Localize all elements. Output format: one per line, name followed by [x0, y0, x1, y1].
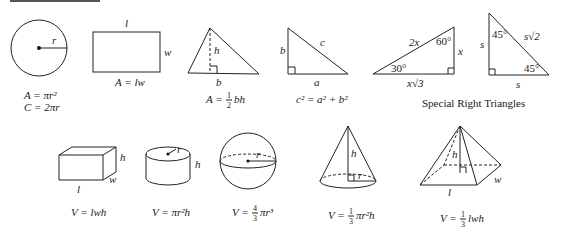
pyramid-l-label: l [448, 186, 451, 198]
triangle-area-lhs: A = [205, 93, 223, 105]
pyramid-h-label: h [452, 148, 458, 160]
cone-volume-num: 1 [349, 207, 353, 216]
sphere-volume-lhs: V = [232, 206, 249, 218]
pyramid-volume-rhs: lwh [468, 212, 484, 224]
sphere-r-label: r [256, 148, 261, 160]
triangle-30-60-90: 2x 60° x 30° x√3 [373, 27, 463, 89]
rectangle-width-label: w [164, 46, 172, 58]
box-figure: h w l V = lwh [59, 147, 126, 218]
pyramid-figure: h w l V = 1 3 lwh [420, 126, 502, 229]
triangle-base-label: b [216, 76, 222, 88]
rectangle-length-label: l [125, 17, 128, 29]
angle-60-label: 60° [436, 35, 451, 47]
leg-s-bottom-label: s [516, 78, 520, 90]
triangle-area-num: 1 [227, 91, 231, 100]
leg-s-left-label: s [480, 38, 484, 50]
sphere-volume-rhs: πr³ [260, 206, 274, 218]
right-triangle-hyp-c: c [320, 36, 325, 48]
right-triangle-figure: b a c c² = a² + b² [280, 28, 348, 105]
pythagorean-formula: c² = a² + b² [296, 93, 348, 105]
sphere-volume-den: 3 [253, 214, 257, 223]
cylinder-figure: r h V = πr²h [146, 143, 201, 218]
angle-45-top-label: 45° [492, 28, 507, 40]
sphere-figure: r V = 4 3 πr³ [220, 133, 276, 223]
pyramid-volume-den: 3 [461, 220, 465, 229]
triangle-45-45-90: 45° s s√2 45° s [480, 13, 549, 90]
geometry-reference-figure: r A = πr² C = 2πr l w A = lw h b A = 1 2… [0, 0, 562, 236]
hyp-2x-label: 2x [409, 36, 420, 48]
circle-circumference-formula: C = 2πr [24, 101, 60, 113]
rectangle-figure: l w A = lw [93, 17, 172, 88]
box-l-label: l [77, 183, 80, 195]
cone-volume-lhs: V = [328, 209, 345, 221]
short-leg-x-label: x [457, 45, 463, 57]
cylinder-h-label: h [195, 158, 201, 170]
angle-45-right-label: 45° [524, 62, 539, 74]
circle-radius-label: r [52, 34, 57, 46]
pyramid-w-label: w [494, 173, 502, 185]
angle-30-label: 30° [391, 62, 406, 74]
cylinder-r-label: r [177, 143, 182, 155]
box-h-label: h [120, 151, 126, 163]
triangle-area-den: 2 [227, 101, 231, 110]
box-volume-formula: V = lwh [71, 206, 107, 218]
pyramid-volume-lhs: V = [440, 212, 457, 224]
cone-volume-den: 3 [349, 217, 353, 226]
cone-r-label: r [358, 169, 363, 181]
right-triangle-leg-a: a [314, 76, 320, 88]
cone-figure: h r V = 1 3 πr²h [320, 126, 376, 226]
rectangle-area-formula: A = lw [114, 76, 145, 88]
pyramid-volume-num: 1 [461, 210, 465, 219]
long-leg-label: x√3 [406, 77, 424, 89]
circle-area-formula: A = πr² [23, 89, 57, 101]
circle-figure: r A = πr² C = 2πr [11, 20, 67, 113]
box-w-label: w [109, 173, 117, 185]
cylinder-volume-formula: V = πr²h [152, 206, 191, 218]
triangle-area-rhs: bh [234, 93, 246, 105]
sphere-volume-num: 4 [253, 204, 257, 213]
triangle-height-label: h [214, 44, 220, 56]
hyp-s-root2-label: s√2 [524, 30, 540, 42]
triangle-figure: h b A = 1 2 bh [188, 28, 259, 110]
cone-volume-rhs: πr²h [356, 209, 375, 221]
special-right-triangles-caption: Special Right Triangles [422, 97, 525, 109]
cone-h-label: h [351, 147, 357, 159]
right-triangle-leg-b: b [280, 44, 286, 56]
